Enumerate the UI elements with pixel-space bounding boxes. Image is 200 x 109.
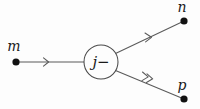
vertex-dot-m[interactable] [12,58,19,65]
arrowhead-double-j-to-p [142,72,148,81]
vertex-label-n: n [177,0,186,15]
vertex-label-m: m [7,38,20,54]
vertex-m[interactable]: m [7,38,20,66]
vertex-n[interactable]: n [177,0,187,25]
arrowhead-double-j-to-p-second [147,74,153,83]
vertex-dot-n[interactable] [180,17,187,24]
edge-j-to-n [116,21,185,54]
vertex-label-p: p [178,77,187,93]
edge-m-to-j [16,58,85,66]
vertex-p[interactable]: p [178,77,188,103]
edge-j-to-p [116,71,185,100]
center-node-label: j− [89,53,109,71]
edge-line-j-to-p [116,71,185,100]
diagram-canvas: j− m n p [0,0,200,109]
vertex-dot-p[interactable] [180,95,187,102]
edge-line-j-to-n [116,21,185,54]
graph-diagram: j− m n p [0,0,200,109]
